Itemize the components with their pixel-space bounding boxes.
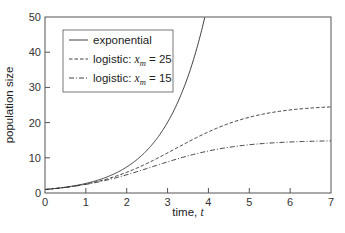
x-tick-label: 3 <box>165 196 171 208</box>
x-tick-label: 4 <box>205 196 211 208</box>
x-axis-ticks: 01234567 <box>42 188 334 208</box>
series-dashdot-line <box>45 141 331 190</box>
y-tick-label: 0 <box>35 187 41 199</box>
legend-label: exponential <box>93 34 152 46</box>
x-tick-label: 7 <box>328 196 334 208</box>
y-axis-ticks: 01020304050 <box>29 11 50 199</box>
x-tick-label: 0 <box>42 196 48 208</box>
y-tick-label: 10 <box>29 152 41 164</box>
y-axis-label: population size <box>3 67 15 144</box>
y-tick-label: 40 <box>29 46 41 58</box>
series-dashed-line <box>45 107 331 190</box>
x-tick-label: 1 <box>83 196 89 208</box>
y-tick-label: 50 <box>29 11 41 23</box>
legend: exponentiallogistic: xm = 25logistic: xm… <box>63 30 173 92</box>
y-tick-label: 20 <box>29 117 41 129</box>
population-chart: 01234567 01020304050 time, t population … <box>0 0 345 233</box>
x-tick-label: 6 <box>287 196 293 208</box>
x-axis-label: time, t <box>172 206 204 218</box>
y-tick-label: 30 <box>29 81 41 93</box>
x-tick-label: 5 <box>246 196 252 208</box>
x-tick-label: 2 <box>124 196 130 208</box>
